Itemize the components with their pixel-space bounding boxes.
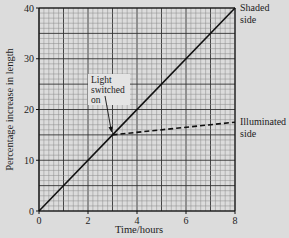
annotation-text-line: switched [91,85,125,95]
line-chart: 02468010203040 ShadedsideIlluminatedside… [0,0,289,238]
series-label-line: side [240,14,257,25]
y-tick-label: 30 [24,53,34,64]
y-axis-title: Percentage increase in length [4,47,15,170]
series-label-line: Shaded [240,2,269,13]
x-tick-label: 6 [184,215,189,226]
x-tick-label: 8 [233,215,238,226]
series-label-line: Illuminated [240,116,286,127]
y-tick-label: 10 [24,155,34,166]
series-label-shaded-side: Shadedside [240,2,269,25]
x-tick-label: 0 [37,215,42,226]
annotation-text-line: on [91,95,101,105]
series-label-line: side [240,128,257,139]
series-label-illuminated-side: Illuminatedside [240,116,286,139]
x-tick-label: 2 [86,215,91,226]
y-tick-label: 20 [24,104,34,115]
chart-labels: Time/hoursPercentage increase in length [4,47,163,235]
y-tick-label: 0 [29,206,34,217]
y-tick-label: 40 [24,3,34,14]
x-axis-title: Time/hours [115,224,163,235]
annotation-text-line: Light [91,75,112,85]
series-line-illuminated-side [113,122,236,135]
